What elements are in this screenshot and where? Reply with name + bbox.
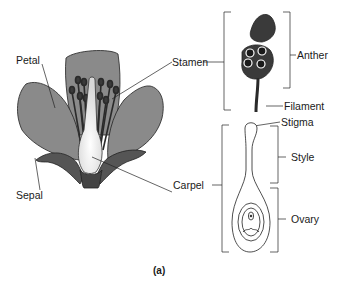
- flower-cross-section: [17, 51, 163, 188]
- label-ovary: Ovary: [291, 214, 319, 225]
- stamen-detail: [242, 14, 276, 112]
- label-stamen: Stamen: [172, 57, 208, 68]
- anther-upper: [250, 14, 275, 42]
- label-style: Style: [291, 152, 314, 163]
- carpel-outline: [232, 123, 270, 252]
- label-petal: Petal: [16, 55, 40, 66]
- label-filament: Filament: [284, 101, 324, 112]
- label-stigma: Stigma: [281, 117, 314, 128]
- flower-diagram: Petal Stamen Anther Filament Stigma Styl…: [0, 0, 342, 284]
- label-anther: Anther: [297, 50, 328, 61]
- flower-illustration: [0, 0, 342, 284]
- label-sepal: Sepal: [16, 190, 43, 201]
- ovule-center: [250, 215, 252, 217]
- label-carpel: Carpel: [173, 180, 204, 191]
- figure-caption: (a): [153, 265, 165, 276]
- right-sepal: [96, 150, 146, 184]
- carpel-detail: [232, 123, 270, 252]
- filament-stalk: [256, 78, 258, 112]
